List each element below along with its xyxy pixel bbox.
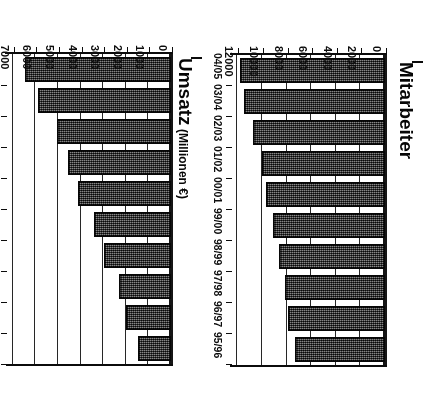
category-tick <box>1 333 7 334</box>
bar-02-03 <box>57 119 171 143</box>
value-tick-label: 6000 <box>297 46 309 70</box>
chart-top-rule <box>6 364 173 366</box>
chart-mitarbeiter: 020004000600080001000012000 95/9696/9797… <box>224 0 439 394</box>
bar-03-04 <box>38 88 171 112</box>
value-tick <box>288 48 289 55</box>
bar-row <box>232 244 385 268</box>
category-tick <box>226 85 232 86</box>
category-tick <box>226 147 232 148</box>
category-tick <box>226 271 232 272</box>
plot-area-mitarbeiter <box>232 55 387 365</box>
bar-row <box>7 274 171 298</box>
value-tick-label: 1000 <box>134 45 146 69</box>
category-tick <box>226 178 232 179</box>
bar-04-05 <box>240 58 385 82</box>
bar-98-99 <box>104 243 171 267</box>
bar-row <box>7 150 171 174</box>
scanned-chart-page: 020004000600080001000012000 95/9696/9797… <box>0 0 439 394</box>
value-tick-label: 4000 <box>322 46 334 70</box>
value-tick-label: 2000 <box>346 46 358 70</box>
value-tick <box>59 47 60 54</box>
value-tick <box>37 47 38 54</box>
axis-title-umsatz: Umsatz (Millionen €) <box>174 58 196 199</box>
category-axis-umsatz: 95/9696/9797/9898/9999/0000/0101/0202/03… <box>0 55 7 365</box>
bar-row <box>232 337 385 361</box>
value-tick <box>172 47 173 54</box>
value-tick <box>386 48 387 55</box>
category-tick <box>226 116 232 117</box>
bar-00-01 <box>266 182 385 206</box>
value-axis-umsatz: 01000200030004000500060007000 <box>5 0 173 54</box>
value-tick-label: 0 <box>371 46 383 52</box>
bar-row <box>232 182 385 206</box>
category-tick <box>226 209 232 210</box>
bar-95-96 <box>138 336 171 360</box>
value-tick <box>263 48 264 55</box>
bar-97-98 <box>119 274 171 298</box>
value-tick <box>238 48 239 55</box>
chart-umsatz: 01000200030004000500060007000 95/9696/97… <box>0 0 224 394</box>
bar-row <box>7 119 171 143</box>
bar-96-97 <box>288 306 385 330</box>
category-tick <box>226 333 232 334</box>
value-tick-label: 0 <box>157 45 169 51</box>
bar-row <box>232 275 385 299</box>
value-tick <box>312 48 313 55</box>
category-tick <box>1 271 7 272</box>
bar-99-00 <box>273 213 385 237</box>
value-tick <box>14 47 15 54</box>
value-tick-label: 5000 <box>44 45 56 69</box>
category-tick <box>226 364 232 365</box>
value-tick <box>361 48 362 55</box>
bar-01-02 <box>262 151 385 175</box>
value-tick <box>104 47 105 54</box>
bar-03-04 <box>244 89 385 113</box>
plot-area-umsatz <box>7 54 173 364</box>
axis-title-mitarbeiter: Mitarbeiter <box>395 62 417 159</box>
category-tick <box>226 302 232 303</box>
category-tick <box>1 178 7 179</box>
bar-99-00 <box>94 212 171 236</box>
value-tick-label: 2000 <box>112 45 124 69</box>
axis-title-umsatz-main: Umsatz <box>175 58 196 126</box>
category-tick <box>1 85 7 86</box>
value-tick-label: 3000 <box>89 45 101 69</box>
value-axis-mitarbeiter: 020004000600080001000012000 <box>230 1 387 55</box>
value-tick <box>127 47 128 54</box>
bar-row <box>7 181 171 205</box>
bar-row <box>7 212 171 236</box>
bar-row <box>7 305 171 329</box>
category-tick <box>1 147 7 148</box>
category-tick <box>226 240 232 241</box>
value-tick-label: 8000 <box>273 46 285 70</box>
category-tick <box>1 209 7 210</box>
bar-row <box>232 120 385 144</box>
bar-95-96 <box>295 337 385 361</box>
chart-top-rule <box>230 365 387 367</box>
value-tick-label: 10000 <box>248 46 260 77</box>
value-tick-label: 4000 <box>67 45 79 69</box>
bar-row <box>232 306 385 330</box>
axis-title-umsatz-unit: (Millionen €) <box>176 126 190 199</box>
value-tick <box>337 48 338 55</box>
bar-row <box>7 336 171 360</box>
category-tick <box>1 302 7 303</box>
bar-96-97 <box>126 305 171 329</box>
bar-01-02 <box>68 150 171 174</box>
bar-row <box>232 89 385 113</box>
bar-02-03 <box>253 120 385 144</box>
bar-row <box>7 88 171 112</box>
value-tick-label: 6000 <box>22 45 34 69</box>
bar-row <box>7 243 171 267</box>
category-tick <box>1 364 7 365</box>
bar-row <box>232 151 385 175</box>
bars-mitarbeiter <box>232 55 385 365</box>
bar-00-01 <box>78 181 171 205</box>
bar-row <box>232 213 385 237</box>
bar-97-98 <box>285 275 385 299</box>
category-tick <box>1 240 7 241</box>
value-tick <box>149 47 150 54</box>
value-tick <box>82 47 83 54</box>
bars-umsatz <box>7 54 171 364</box>
bar-98-99 <box>279 244 385 268</box>
